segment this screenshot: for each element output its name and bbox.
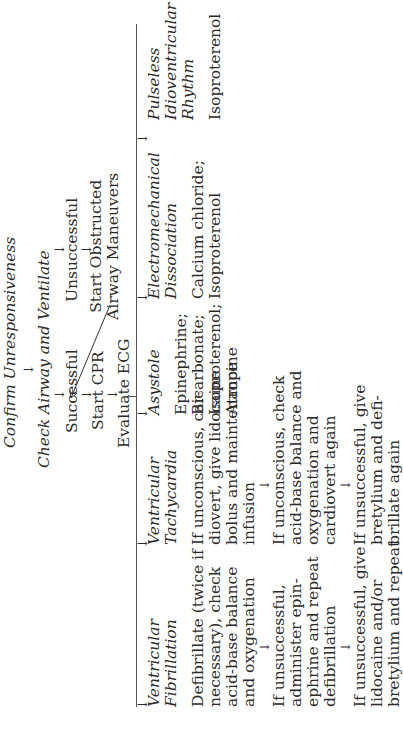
- column-title: Pulseless Idioventricular Rhythm: [146, 3, 197, 120]
- title-line: Pulseless: [146, 3, 163, 120]
- step-line: administer epin-: [288, 541, 305, 707]
- step-line: bretylium and repeat: [386, 541, 403, 707]
- title-line: Rhythm: [180, 3, 197, 120]
- step-line: defibrillation: [322, 541, 339, 707]
- step-line: If unsuccessful, give: [352, 363, 369, 546]
- step-line: Atropine: [224, 303, 241, 415]
- unresponsiveness-label: Unresponsiveness: [1, 237, 19, 380]
- step-line: cardiovert again: [322, 363, 339, 546]
- step-line: Calcium chloride;: [190, 152, 207, 299]
- step-line: Bicarbonate;: [190, 303, 207, 415]
- title-line: Fibrillation: [163, 541, 180, 707]
- column-asystole: Asystole Epinephrine; Bicarbonate; Isopr…: [146, 303, 241, 415]
- obstructed-line-2: Airway Maneuvers: [105, 173, 122, 320]
- step-line: If unsuccessful,: [271, 541, 288, 707]
- step-line: If unsuccessful, give: [352, 541, 369, 707]
- step-line: necessary), check: [207, 541, 224, 707]
- title-line: Electromechanical: [146, 152, 163, 299]
- title-line: Idioventricular: [163, 3, 180, 120]
- title-line: Ventricular: [146, 541, 163, 707]
- start-obstructed-airway: Start Obstructed Airway Maneuvers: [88, 173, 122, 320]
- step-line: brillate again: [386, 363, 403, 546]
- column-electromechanical-dissociation: Electromechanical Dissociation Calcium c…: [146, 152, 224, 299]
- obstructed-line-1: Start Obstructed: [88, 173, 105, 320]
- title-line: Dissociation: [163, 152, 180, 299]
- column-ventricular-fibrillation: Ventricular Fibrillation Defibrillate (t…: [146, 541, 403, 707]
- step-line: If unconscious, check: [271, 363, 288, 546]
- branch-bar: [136, 24, 137, 707]
- down-arrow-icon: ↓: [22, 364, 35, 375]
- step-line: Isoproterenol: [207, 152, 224, 299]
- column-title: Ventricular Fibrillation: [146, 541, 180, 707]
- step-line: lidocaine and/or: [369, 541, 386, 707]
- confirm-unresponsiveness: Confirm Unresponsiveness: [2, 237, 19, 448]
- confirm-label: Confirm: [1, 384, 19, 448]
- down-arrow-icon: ↓: [136, 133, 149, 144]
- check-airway-ventilate: Check Airway and Ventilate: [36, 250, 53, 468]
- column-title: Electromechanical Dissociation: [146, 152, 180, 299]
- step-line: and oxygenation: [241, 541, 258, 707]
- evaluate-ecg-label: Evaluate ECG: [116, 339, 133, 448]
- step-line: infusion: [241, 363, 258, 546]
- step-line: Defibrillate (twice if: [190, 541, 207, 707]
- column-title: Asystole: [146, 303, 163, 415]
- step-line: Isoproterenol;: [207, 303, 224, 415]
- step-line: Epinephrine;: [173, 303, 190, 415]
- title-line: Asystole: [146, 303, 163, 415]
- step-line: oxygenation and: [305, 363, 322, 546]
- column-pulseless-idioventricular-rhythm: Pulseless Idioventricular Rhythm Isoprot…: [146, 3, 224, 120]
- step-line: bretylium and defi-: [369, 363, 386, 546]
- step-line: Isoproterenol: [207, 3, 224, 120]
- step-line: acid-base balance: [224, 541, 241, 707]
- step-line: ephrine and repeat: [305, 541, 322, 707]
- step-line: acid-base balance and: [288, 363, 305, 546]
- connector-line: [128, 396, 136, 397]
